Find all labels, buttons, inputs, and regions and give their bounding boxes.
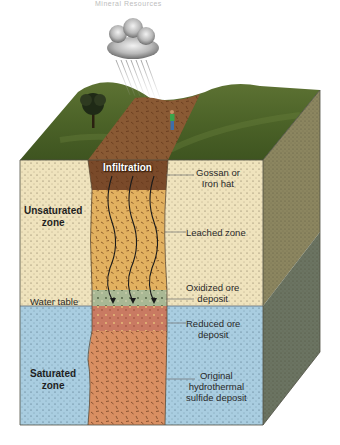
cloud-icon (107, 18, 159, 59)
gossan-label: Gossan or Iron hat (196, 167, 240, 189)
ore-column (88, 160, 168, 425)
original-sulfide-label: Original hydrothermal sulfide deposit (186, 370, 247, 403)
unsaturated-zone-label: Unsaturated zone (24, 205, 82, 229)
ore-deposit-diagram: Mineral Resources (0, 0, 340, 445)
leached-zone-label: Leached zone (186, 227, 246, 238)
infiltration-label: Infiltration (103, 162, 152, 173)
reduced-ore-label: Reduced ore deposit (186, 318, 240, 340)
saturated-zone-label: Saturated zone (30, 368, 76, 392)
water-table-label: Water table (30, 296, 78, 307)
oxidized-ore-label: Oxidized ore deposit (186, 282, 239, 304)
